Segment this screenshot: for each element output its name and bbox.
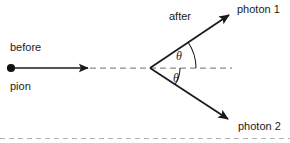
figure-canvas: before pion after photon 1 photon 2 θ θ: [0, 0, 290, 143]
photon2-momentum-arrow: [150, 68, 228, 119]
photon1-momentum-arrow: [150, 15, 229, 68]
label-theta-upper: θ: [176, 50, 182, 62]
label-before: before: [10, 42, 41, 53]
label-theta-lower: θ: [173, 72, 179, 84]
label-after: after: [169, 11, 191, 22]
theta-upper-arc: [188, 42, 196, 68]
label-photon-1: photon 1: [237, 4, 280, 15]
label-pion: pion: [10, 81, 31, 92]
label-photon-2: photon 2: [238, 121, 281, 132]
